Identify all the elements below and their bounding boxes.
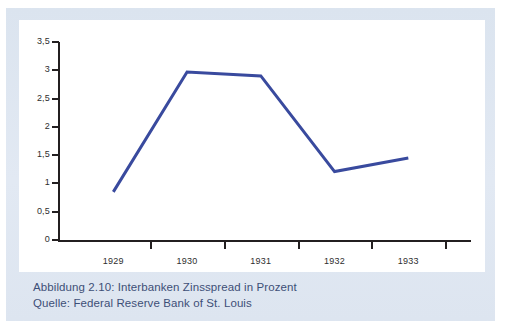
series-line-interbanken-zinsspread xyxy=(113,72,408,192)
plot-area: 00,511,522,533,5 19291930193119321933 xyxy=(19,20,485,272)
series-line-chart xyxy=(19,20,485,272)
chart-card: 00,511,522,533,5 19291930193119321933 xyxy=(19,20,485,272)
caption-line-title: Abbildung 2.10: Interbanken Zinsspread i… xyxy=(33,279,463,295)
figure-root: 00,511,522,533,5 19291930193119321933 Ab… xyxy=(0,0,507,326)
caption-line-source: Quelle: Federal Reserve Bank of St. Loui… xyxy=(33,295,463,311)
figure-caption: Abbildung 2.10: Interbanken Zinsspread i… xyxy=(33,279,463,311)
